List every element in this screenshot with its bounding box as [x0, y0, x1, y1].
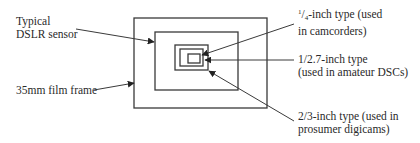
film-frame-label: 35mm film frame: [16, 84, 97, 97]
two-thirds-inch-label: 2/3-inch type (used in prosumer digicams…: [298, 110, 399, 136]
quarter-inch-label: 1/4-inch type (used in camcorders): [298, 6, 382, 38]
film-label-line1: 35mm film frame: [16, 84, 97, 97]
quarter-label-line2: in camcorders): [298, 25, 382, 38]
dslr-label-line2: DSLR sensor: [16, 28, 78, 41]
one-over-2-7-inch-label: 1/2.7-inch type (used in amateur DSCs): [298, 53, 408, 79]
dslr-leader-arrow: [76, 29, 154, 42]
dslr-sensor-label: Typical DSLR sensor: [16, 15, 78, 41]
one-over-2-7-label-line1: 1/2.7-inch type: [298, 53, 408, 66]
quarter-label-line1: 1/4-inch type (used: [298, 6, 382, 25]
two-thirds-leader-arrow: [209, 71, 294, 121]
one-over-2-7-label-line2: (used in amateur DSCs): [298, 66, 408, 79]
quarter-leader-arrow: [202, 24, 294, 55]
dslr-label-line1: Typical: [16, 15, 78, 28]
quarter-fraction: 1/4: [298, 8, 308, 20]
film-leader-arrow: [94, 83, 134, 90]
two-thirds-label-line2: prosumer digicams): [298, 123, 399, 136]
two-thirds-label-line1: 2/3-inch type (used in: [298, 110, 399, 123]
quarter-inch-rect: [188, 54, 200, 63]
